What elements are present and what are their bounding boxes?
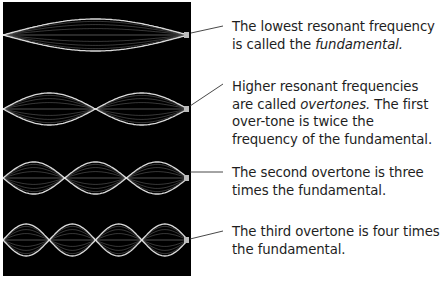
caption-emphasis: fundamental. xyxy=(315,37,403,52)
leader-line-third-overtone xyxy=(190,231,223,239)
caption-fundamental: The lowest resonant frequency is called … xyxy=(232,18,440,53)
leader-line-fundamental xyxy=(191,26,223,33)
caption-text: The third overtone is four times the fun… xyxy=(232,224,440,257)
caption-first-overtone: Higher resonant frequencies are called o… xyxy=(232,78,440,148)
caption-third-overtone: The third overtone is four times the fun… xyxy=(232,223,440,258)
caption-text: The second overtone is three times the f… xyxy=(232,165,424,198)
leader-line-first-overtone xyxy=(190,84,223,106)
caption-emphasis: overtones. xyxy=(300,97,370,112)
caption-second-overtone: The second overtone is three times the f… xyxy=(232,164,440,199)
